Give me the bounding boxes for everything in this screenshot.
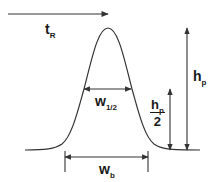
half-height-num-main: h (151, 97, 159, 112)
retention-time-main: t (45, 21, 50, 37)
base-width-sub: b (110, 171, 115, 180)
half-width-label: w1/2 (95, 93, 117, 109)
peak-height-sub: p (202, 78, 207, 87)
diagram-canvas (0, 0, 213, 182)
half-height-denominator: 2 (154, 113, 161, 128)
half-height-label: hp 2 (150, 98, 165, 128)
half-width-sub: 1/2 (106, 103, 117, 112)
base-width-main: w (99, 161, 110, 177)
retention-time-label: tR (45, 21, 55, 37)
retention-time-sub: R (50, 31, 56, 40)
base-width-label: wb (99, 161, 115, 177)
half-height-numerator: hp (150, 98, 165, 113)
chromatogram-peak-diagram: tR w1/2 wb hp hp 2 (0, 0, 213, 182)
half-width-main: w (95, 93, 106, 109)
peak-height-main: h (193, 68, 202, 84)
half-height-num-sub: p (159, 106, 164, 115)
peak-height-label: hp (193, 68, 206, 84)
